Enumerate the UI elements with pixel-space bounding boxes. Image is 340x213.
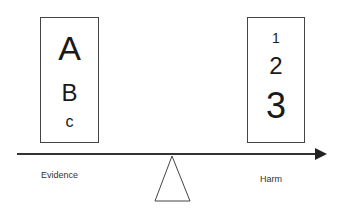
harm-label: Harm (260, 174, 282, 184)
number-2: 2 (248, 54, 304, 78)
harm-box: 1 2 3 (247, 17, 305, 143)
letter-a: A (41, 31, 98, 65)
number-1: 1 (248, 31, 304, 45)
fulcrum-triangle (155, 156, 190, 201)
letter-c: C (41, 114, 98, 130)
letter-b: B (41, 81, 98, 105)
evidence-box: A B C (40, 17, 99, 143)
number-3: 3 (248, 88, 304, 124)
arrowhead-icon (315, 148, 327, 160)
evidence-label: Evidence (41, 170, 78, 180)
